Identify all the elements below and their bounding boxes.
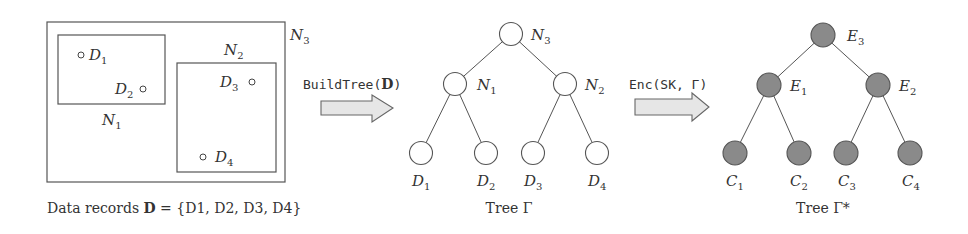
tree-leaf-c1 [723,141,747,165]
point-d4-icon [200,154,206,160]
tree-node-n1-label: N1 [476,76,497,96]
tree-leaf-c1-label: C1 [726,172,744,192]
tree-leaf-d2-label: D2 [476,172,495,192]
build-tree-label: BuildTree(D) [303,76,401,92]
right-arrow-icon [635,93,709,121]
tree-leaf-d3 [522,142,545,165]
tree-node-n3 [500,23,523,46]
region-n2-label: N2 [223,41,244,61]
region-n3-box [47,22,285,182]
tree-node-e1-label: E1 [789,77,807,97]
tree-leaf-d4 [586,142,609,165]
tree-plain-caption: Tree Γ [486,200,533,216]
region-n1-box [58,35,165,104]
tree-node-e3-label: E3 [846,27,864,47]
tree-encrypted-caption: Tree Γ* [796,200,850,216]
tree-node-e2 [866,73,890,97]
point-d2-label: D2 [114,80,133,100]
tree-node-e2-label: E2 [898,77,916,97]
region-n3-label: N3 [289,26,310,46]
tree-node-e3 [811,23,835,47]
tree-leaf-c2 [787,141,811,165]
tree-encrypted: E3 E1 E2 C1 C2 C3 C4 Tree Γ* [723,23,922,216]
tree-node-e1 [757,73,781,97]
point-d1-label: D1 [88,46,107,66]
tree-leaf-d1-label: D1 [411,172,430,192]
point-d2-icon [140,86,146,92]
data-records-panel: N3 N1 N2 D1 D2 D3 D4 Data records D = {D… [47,22,310,216]
tree-leaf-c3-label: C3 [838,172,856,192]
tree-plain: N3 N1 N2 D1 D2 D3 D4 Tree Γ [410,23,609,217]
tree-leaf-c4 [898,141,922,165]
region-n1-label: N1 [101,111,122,131]
tree-node-n2-label: N2 [584,76,605,96]
point-d1-icon [78,52,84,58]
point-d4-label: D4 [214,148,233,168]
tree-leaf-c3 [834,141,858,165]
tree-node-n2 [554,73,577,96]
tree-leaf-d4-label: D4 [587,172,606,192]
point-d3-label: D3 [219,73,238,93]
build-tree-arrow: BuildTree(D) [303,76,401,122]
figure-canvas: N3 N1 N2 D1 D2 D3 D4 Data records D = {D… [0,0,968,234]
tree-node-n1 [444,73,467,96]
data-records-caption: Data records D = {D1, D2, D3, D4} [47,200,301,216]
tree-leaf-d2 [475,142,498,165]
encrypt-arrow: Enc(SK, Γ) [629,77,709,121]
tree-leaf-d1 [410,142,433,165]
encrypt-label: Enc(SK, Γ) [629,77,707,92]
tree-leaf-c4-label: C4 [902,172,920,192]
point-d3-icon [249,79,255,85]
tree-node-n3-label: N3 [530,26,551,46]
right-arrow-icon [321,95,393,122]
tree-leaf-d3-label: D3 [523,172,542,192]
tree-leaf-c2-label: C2 [790,172,808,192]
